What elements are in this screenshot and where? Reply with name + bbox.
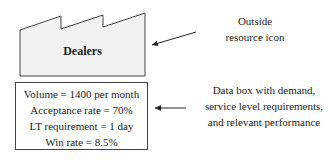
annotation-text: resource icon <box>200 29 310 45</box>
annotation-text: Data box with demand, <box>196 82 332 98</box>
data-box: Volume = 1400 per month Acceptance rate … <box>15 82 148 150</box>
data-line-win-rate: Win rate = 8.5% <box>16 136 147 148</box>
arrow-outside-resource <box>152 32 196 45</box>
annotation-data-box: Data box with demand, service level requ… <box>196 82 332 130</box>
annotation-outside-resource: Outside resource icon <box>200 13 310 45</box>
data-line-volume: Volume = 1400 per month <box>16 88 147 100</box>
data-line-lt: LT requirement = 1 day <box>16 120 147 132</box>
data-line-acceptance: Acceptance rate = 70% <box>16 104 147 116</box>
annotation-text: Outside <box>200 13 310 29</box>
annotation-text: and relevant performance <box>196 114 332 130</box>
annotation-text: service level requirements, <box>196 98 332 114</box>
outside-resource-label: Dealers <box>20 44 145 59</box>
